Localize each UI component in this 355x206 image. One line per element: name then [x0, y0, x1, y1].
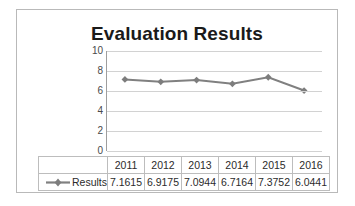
table-cell-year: 2011 — [108, 157, 145, 174]
series-line-results — [107, 51, 322, 151]
y-axis-tick-label: 4 — [97, 106, 103, 116]
table-cell-value: 6.7164 — [219, 174, 256, 191]
table-cell-year: 2012 — [145, 157, 182, 174]
data-point-marker — [229, 80, 236, 87]
table-cell-value: 7.0944 — [182, 174, 219, 191]
data-point-marker — [265, 74, 272, 81]
y-axis-tick-label: 6 — [97, 86, 103, 96]
table-corner-blank — [39, 157, 108, 174]
data-point-marker — [122, 76, 129, 83]
table-row-years: 201120122013201420152016 — [39, 157, 330, 174]
y-axis: 1086420 — [57, 51, 103, 151]
table-cell-value: 6.0441 — [293, 174, 330, 191]
series-polyline — [125, 77, 304, 90]
legend-entry-results: Results — [39, 174, 108, 191]
plot-region: 1086420 — [17, 56, 339, 156]
gridline — [107, 71, 322, 72]
table-row-results: Results 7.16156.91757.09446.71647.37526.… — [39, 174, 330, 191]
y-axis-tick-label: 0 — [97, 146, 103, 156]
table-cell-year: 2014 — [219, 157, 256, 174]
table-cell-year: 2016 — [293, 157, 330, 174]
legend-marker-icon — [45, 177, 71, 188]
plot-area — [106, 51, 322, 151]
y-axis-tick-label: 10 — [92, 46, 103, 56]
gridline — [107, 131, 322, 132]
table-cell-value: 7.1615 — [108, 174, 145, 191]
y-axis-tick-label: 8 — [97, 66, 103, 76]
y-axis-tick-label: 2 — [97, 126, 103, 136]
table-cell-year: 2013 — [182, 157, 219, 174]
data-table: 201120122013201420152016 Results 7.16156… — [38, 156, 330, 191]
table-cell-value: 7.3752 — [256, 174, 293, 191]
gridline — [107, 91, 322, 92]
gridline — [107, 111, 322, 112]
data-point-marker — [157, 78, 164, 85]
table-cell-value: 6.9175 — [145, 174, 182, 191]
gridline — [107, 151, 322, 152]
gridline — [107, 51, 322, 52]
data-point-marker — [193, 77, 200, 84]
legend-label-results: Results — [72, 175, 107, 190]
chart-container: Evaluation Results 1086420 2011201220132… — [16, 9, 338, 193]
chart-title: Evaluation Results — [17, 23, 337, 45]
table-cell-year: 2015 — [256, 157, 293, 174]
